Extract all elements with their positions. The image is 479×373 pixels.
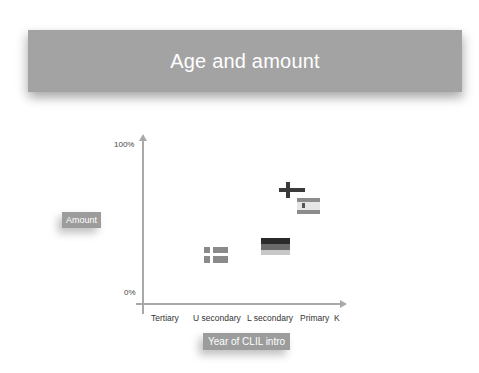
finland-flag-icon (279, 182, 305, 198)
sweden-flag-icon (204, 247, 228, 263)
x-tick-l-secondary: L secondary (247, 313, 293, 323)
y-tick-0: 0% (124, 288, 136, 297)
x-tick-tertiary: Tertiary (151, 313, 179, 323)
x-tick-primary: Primary (300, 313, 329, 323)
y-axis-arrow-icon (139, 134, 147, 141)
y-tick-100: 100% (114, 140, 134, 149)
y-axis-label-text: Amount (66, 215, 97, 225)
title-banner: Age and amount (28, 30, 462, 92)
x-tick-u-secondary: U secondary (193, 313, 241, 323)
x-tick-k: K (334, 313, 340, 323)
x-axis-arrow-icon (340, 300, 347, 308)
y-axis-label: Amount (62, 212, 101, 228)
x-axis (136, 303, 340, 305)
x-axis-label: Year of CLIL intro (203, 333, 290, 350)
spain-flag-icon (297, 198, 320, 214)
germany-flag-icon (261, 238, 290, 255)
y-axis (142, 138, 144, 314)
slide-title: Age and amount (170, 50, 320, 73)
x-axis-label-text: Year of CLIL intro (208, 336, 285, 347)
